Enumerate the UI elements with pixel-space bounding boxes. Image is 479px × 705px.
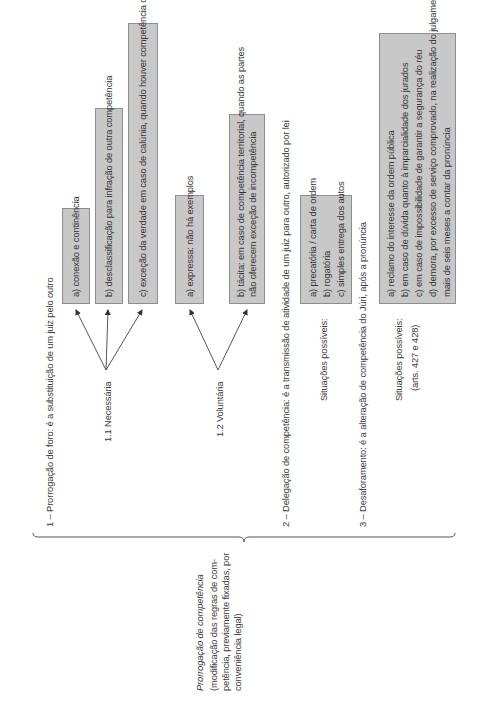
voluntaria-label: 1.2 Voluntária	[214, 382, 226, 437]
section3-heading: 3 – Desaforamento: é a alteração de comp…	[357, 222, 369, 527]
section3-items-box: a) reclamo do interesse da ordem pública…	[379, 33, 456, 304]
curly-brace-icon	[33, 533, 455, 542]
necessaria-item-c: c) exceção da verdade em caso de calúnia…	[137, 0, 149, 297]
section3-item-b: b) em caso de dúvida quanto à imparciali…	[398, 40, 412, 297]
section3-item-d-line-2: mais de seis meses a contar da pronúncia	[440, 40, 454, 297]
necessaria-item-a: a) conexão e continência	[70, 196, 82, 297]
necessaria-item-b: b) desclassificação para infração de out…	[103, 76, 115, 297]
section2-item-a: a) precatória / carta de ordem	[306, 202, 320, 297]
section2-item-c: c) simples entrega dos autos	[334, 202, 348, 297]
voluntaria-item-b-line-2: não oferecem exceção de incompetência	[247, 121, 259, 297]
section1-heading: 1 – Prorrogação de foro: é a substituiçã…	[44, 277, 56, 527]
necessaria-item-b-box: b) desclassificação para infração de out…	[95, 108, 123, 304]
necessaria-item-c-box: c) exceção da verdade em caso de calúnia…	[128, 23, 158, 304]
necessaria-item-a-box: a) conexão e continência	[62, 208, 90, 304]
voluntaria-item-a: a) expressa: não há exemplos	[184, 176, 196, 297]
section2-item-b: b) rogatória	[320, 202, 334, 297]
section3-item-d-line-1: d) demora, por excesso de serviço compro…	[426, 40, 440, 297]
section3-item-c: c) em caso de impossibilidade de garanti…	[412, 40, 426, 297]
section2-heading: 2 – Delegação de competência: é a transm…	[280, 120, 292, 527]
section3-situacoes-label: Situações possíveis:	[393, 319, 405, 401]
section3-item-a: a) reclamo do interesse da ordem pública	[384, 40, 398, 297]
section2-situacoes-label: Situações possíveis:	[318, 319, 330, 401]
voluntaria-item-b-box: b) tácita: em caso de competência territ…	[229, 114, 265, 304]
diagram-canvas: Prorrogação de competência (modificação …	[0, 0, 479, 705]
voluntaria-item-b-line-1: b) tácita: em caso de competência territ…	[235, 121, 247, 297]
voluntaria-item-a-box: a) expressa: não há exemplos	[175, 195, 204, 304]
section3-situacoes-ref: (arts. 427 e 428)	[409, 325, 421, 391]
necessaria-label: 1.1 Necessária	[102, 382, 114, 442]
section2-items-box: a) precatória / carta de ordem b) rogató…	[300, 195, 352, 304]
